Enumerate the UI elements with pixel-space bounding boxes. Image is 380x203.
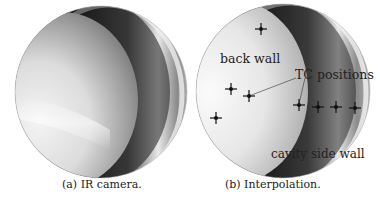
label-tc-positions: TC positions [295,67,374,82]
figure-canvas: back wall TC positions cavity side wall [0,0,380,203]
label-cavity-side-wall: cavity side wall [271,147,365,161]
label-back-wall: back wall [220,51,280,66]
caption-b: (b) Interpolation. [225,178,321,191]
ir-camera-image [0,0,200,188]
caption-a: (a) IR camera. [62,178,142,191]
